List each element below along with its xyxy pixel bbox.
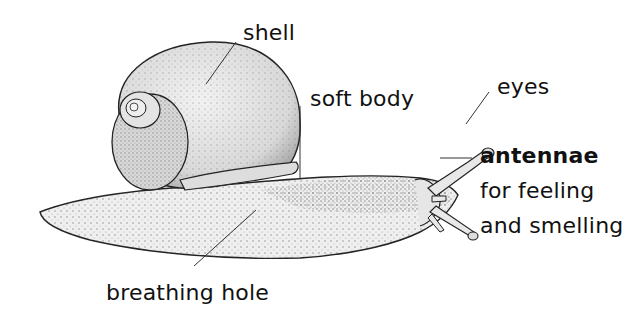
eyes-leader xyxy=(466,92,489,124)
label-eyes: eyes xyxy=(497,76,549,98)
label-antennae-desc-1: for feeling xyxy=(480,180,594,202)
snail-shell xyxy=(112,42,300,190)
label-soft-body: soft body xyxy=(310,88,414,110)
label-breathing-hole: breathing hole xyxy=(106,282,269,304)
snail-body xyxy=(40,176,458,259)
label-antennae-desc-2: and smelling xyxy=(480,215,623,237)
label-shell: shell xyxy=(243,22,295,44)
label-antennae: antennae xyxy=(480,145,599,167)
